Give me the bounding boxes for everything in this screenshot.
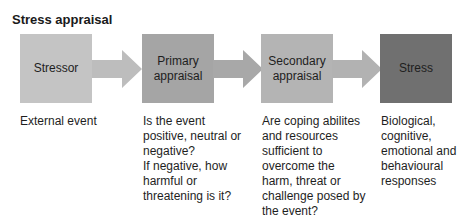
stress-box: Stress [380, 34, 452, 103]
stressor-description: External event [20, 114, 135, 129]
secondary-appraisal-label: Secondary appraisal [268, 54, 325, 84]
arrow-right-icon [332, 50, 382, 88]
stress-label: Stress [399, 61, 433, 76]
primary-appraisal-description: Is the event positive, neutral or negati… [143, 114, 258, 204]
secondary-appraisal-box: Secondary appraisal [261, 34, 333, 103]
primary-appraisal-label: Primary appraisal [154, 54, 203, 84]
arrow-right-icon [92, 50, 142, 88]
arrow-right-icon [213, 50, 263, 88]
secondary-appraisal-description: Are coping abilites and resources suffic… [262, 114, 377, 219]
primary-appraisal-box: Primary appraisal [142, 34, 214, 103]
stressor-label: Stressor [34, 61, 79, 76]
diagram-title: Stress appraisal [12, 12, 112, 27]
stressor-box: Stressor [20, 34, 92, 103]
stress-description: Biological, cognitive, emotional and beh… [381, 114, 466, 189]
